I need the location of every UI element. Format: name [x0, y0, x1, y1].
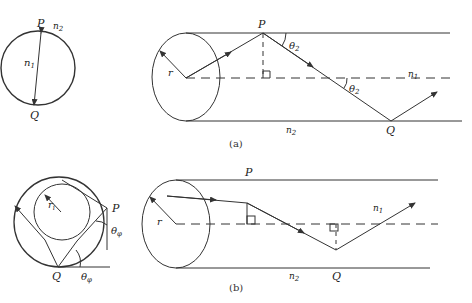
label-q: Q — [30, 109, 39, 122]
radius-arrow — [160, 51, 186, 78]
right-angle-marker — [263, 71, 270, 78]
label-p: P — [36, 17, 45, 30]
panel-b-cross-section: ri P Q θφ θφ — [14, 177, 122, 284]
radius-arrow — [150, 197, 176, 224]
fiber-cross-section-outer — [14, 177, 104, 267]
label-p: P — [111, 202, 120, 215]
label-n1: n1 — [24, 57, 35, 70]
skew-ray-chord-5 — [15, 206, 45, 240]
label-q: Q — [332, 270, 341, 283]
label-q: Q — [386, 124, 395, 137]
panel-b-fiber: r P Q n1 n2 — [142, 166, 438, 283]
skew-ray-chord-3 — [58, 241, 77, 267]
ray-direction-arrow-2 — [263, 33, 313, 67]
label-p: P — [244, 166, 253, 179]
angle-arc-top — [282, 33, 286, 46]
angle-arc-q — [76, 250, 80, 267]
right-angle-marker-1 — [247, 216, 255, 224]
label-r: r — [168, 67, 174, 78]
meridional-chord-arrow — [34, 33, 41, 105]
label-n1: n1 — [373, 203, 383, 215]
ray-direction-arrow-1 — [186, 52, 231, 78]
label-ri: ri — [48, 199, 55, 212]
angle-arc-p — [96, 221, 107, 225]
panel-a-caption: (a) — [229, 138, 243, 149]
label-n2: n2 — [289, 271, 300, 283]
label-n2: n2 — [286, 125, 297, 137]
panel-a: P Q n1 n2 r θ2 θ2 — [1, 17, 462, 149]
panel-a-fiber: r θ2 θ2 P Q n1 n2 — [152, 18, 462, 137]
label-p: P — [257, 18, 266, 31]
ray-segment-3 — [391, 92, 437, 121]
right-angle-marker-2 — [330, 224, 338, 231]
skew-ray-chord-2 — [77, 208, 107, 241]
fiber-ray-diagram: P Q n1 n2 r θ2 θ2 — [0, 0, 472, 303]
label-q: Q — [52, 270, 61, 283]
skew-ray-arrow-1 — [167, 196, 216, 200]
label-n2: n2 — [53, 21, 64, 33]
panel-b: ri P Q θφ θφ r — [14, 166, 438, 293]
skew-ray-chord-4 — [45, 240, 58, 267]
angle-arc-axis — [344, 78, 347, 88]
label-theta-phi-p: θφ — [111, 225, 122, 238]
panel-b-caption: (b) — [229, 282, 243, 293]
label-theta2-axis: θ2 — [349, 83, 360, 96]
label-r: r — [157, 216, 163, 227]
label-theta2-top: θ2 — [289, 40, 300, 53]
panel-a-cross-section: P Q n1 n2 — [1, 17, 75, 122]
fiber-end-face — [152, 33, 220, 121]
skew-ray-arrow-2 — [247, 203, 304, 233]
label-theta-phi-q: θφ — [81, 271, 92, 284]
label-n1: n1 — [408, 69, 418, 81]
